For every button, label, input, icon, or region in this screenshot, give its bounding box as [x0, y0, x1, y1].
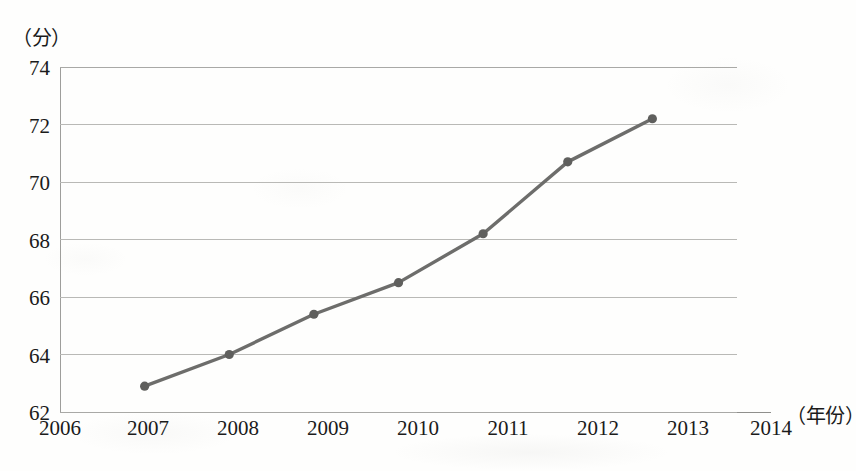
x-tick-label-2014: 2014 [736, 416, 806, 441]
y-tick-label-72: 72 [6, 114, 50, 139]
y-tick-label-68: 68 [6, 229, 50, 254]
x-tick-label-2008: 2008 [203, 416, 273, 441]
y-tick-label-66: 66 [6, 286, 50, 311]
y-tick-label-74: 74 [6, 56, 50, 81]
x-tick-label-2009: 2009 [293, 416, 363, 441]
line-chart-figure: （分） （年份） 74 72 70 68 66 64 62 2006 2007 … [0, 0, 856, 471]
gridline-70 [60, 182, 737, 183]
x-tick-label-2006: 2006 [25, 416, 95, 441]
gridline-72 [60, 124, 737, 125]
gridline-64 [60, 354, 737, 355]
plot-area [60, 67, 737, 412]
gridline-66 [60, 297, 737, 298]
y-tick-label-64: 64 [6, 344, 50, 369]
y-tick-label-70: 70 [6, 171, 50, 196]
gridline-74 [60, 67, 737, 68]
x-tick-label-2013: 2013 [653, 416, 723, 441]
x-tick-label-2012: 2012 [563, 416, 633, 441]
gridline-68 [60, 239, 737, 240]
x-tick-label-2011: 2011 [473, 416, 543, 441]
x-tick-label-2007: 2007 [113, 416, 183, 441]
gridline-62 [60, 412, 737, 413]
x-tick-label-2010: 2010 [383, 416, 453, 441]
y-axis-title: （分） [12, 22, 71, 51]
